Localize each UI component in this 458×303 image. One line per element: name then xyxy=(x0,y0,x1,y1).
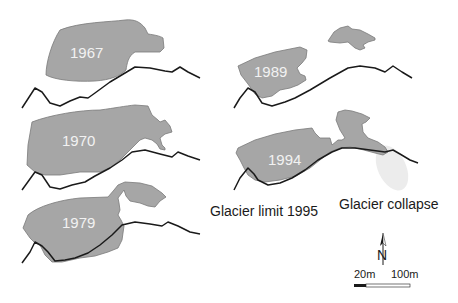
glacier-collapse-label: Glacier collapse xyxy=(339,196,439,212)
scale-bar xyxy=(354,284,410,287)
scale-bar-segment-dark xyxy=(354,284,366,287)
glacier-1970-area xyxy=(27,105,172,175)
panel-1967: 1967 xyxy=(22,20,200,108)
glacier-limit-label: Glacier limit 1995 xyxy=(210,203,318,219)
year-label-1967: 1967 xyxy=(70,44,103,61)
glacier-retreat-figure: 1967 1970 1979 1989 1994 N xyxy=(0,0,458,303)
year-label-1970: 1970 xyxy=(62,132,95,149)
year-label-1989: 1989 xyxy=(254,63,287,80)
north-arrow: N xyxy=(377,233,387,265)
glacier-1967-area xyxy=(46,20,164,81)
scale-label-20m: 20m xyxy=(354,268,375,280)
north-arrow-letter: N xyxy=(377,247,387,263)
scale-label-100m: 100m xyxy=(391,268,419,280)
glacier-1994-area xyxy=(236,110,388,182)
panel-1979: 1979 xyxy=(22,182,200,263)
year-label-1994: 1994 xyxy=(268,151,301,168)
scale-bar-segment-light xyxy=(366,284,410,287)
panel-1989: 1989 xyxy=(234,26,412,108)
year-label-1979: 1979 xyxy=(62,214,95,231)
panel-1994: 1994 xyxy=(234,110,418,196)
glacier-1989-detached-island xyxy=(328,26,375,50)
panel-1970: 1970 xyxy=(22,105,200,190)
